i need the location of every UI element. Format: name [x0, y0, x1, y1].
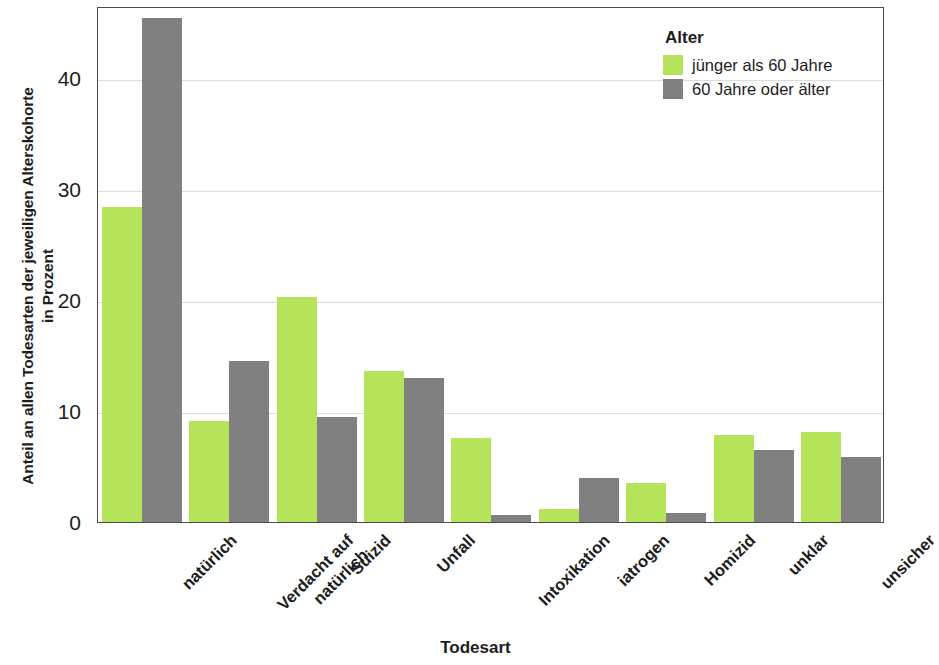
y-axis-tick-label: 20 — [21, 289, 81, 313]
x-axis-tick-label: iatrogen — [613, 530, 674, 591]
bar — [364, 371, 404, 522]
bar-group — [448, 8, 535, 522]
bar — [277, 297, 317, 522]
bar-group — [360, 8, 447, 522]
legend-title: Alter — [663, 28, 832, 48]
bar — [579, 478, 619, 522]
bar — [229, 361, 269, 522]
y-axis-title: Anteil an allen Todesarten der jeweilige… — [8, 16, 68, 556]
y-axis-tick-label: 10 — [21, 400, 81, 424]
x-axis-tick-label: Intoxikation — [534, 530, 615, 611]
bar — [801, 432, 841, 522]
bar — [189, 421, 229, 522]
x-axis-tick-label-line: unsicher — [876, 530, 939, 594]
y-axis-tick-label: 0 — [21, 511, 81, 535]
x-axis-tick-label-line: Homizid — [700, 530, 761, 591]
x-axis-tick-label-line: iatrogen — [613, 530, 674, 591]
x-axis-tick-label-line: natürlich — [177, 530, 241, 594]
legend-entry: 60 Jahre oder älter — [663, 79, 832, 99]
chart-legend: Alter jünger als 60 Jahre60 Jahre oder ä… — [663, 28, 832, 103]
bar — [102, 207, 142, 522]
x-axis-tick-label-line: unklar — [783, 530, 833, 580]
legend-swatch — [663, 79, 683, 99]
bar — [714, 435, 754, 522]
bar — [539, 509, 579, 522]
x-axis-tick-label-line: Unfall — [432, 530, 480, 578]
x-axis-tick-label-line: Intoxikation — [534, 530, 615, 611]
bar — [491, 515, 531, 522]
x-axis-tick-label: natürlich — [177, 530, 241, 594]
legend-entries: jünger als 60 Jahre60 Jahre oder älter — [663, 55, 832, 99]
bar-group — [535, 8, 622, 522]
x-axis-title: Todesart — [0, 638, 891, 658]
legend-label: 60 Jahre oder älter — [692, 80, 831, 99]
bar — [404, 378, 444, 522]
bar — [317, 417, 357, 522]
bar — [142, 18, 182, 522]
legend-label: jünger als 60 Jahre — [692, 56, 832, 75]
bar — [666, 513, 706, 522]
bar-group — [98, 8, 185, 522]
y-axis-tick-label: 30 — [21, 178, 81, 202]
bar — [754, 450, 794, 522]
bar — [451, 438, 491, 522]
x-axis-tick-label: Unfall — [432, 530, 480, 578]
y-axis-tick-label: 40 — [21, 67, 81, 91]
x-axis-tick-label: Homizid — [700, 530, 761, 591]
legend-swatch — [663, 55, 683, 75]
bar-group — [273, 8, 360, 522]
y-axis-title-line1: Anteil an allen Todesarten der jeweilige… — [18, 87, 38, 485]
x-axis-tick-label: unsicher — [876, 530, 939, 594]
x-axis-tick-label: unklar — [783, 530, 833, 580]
bar-group — [185, 8, 272, 522]
bar — [626, 483, 666, 522]
bar — [841, 457, 881, 522]
x-axis-tick-label: Verdacht aufnatürlich — [273, 530, 373, 630]
legend-entry: jünger als 60 Jahre — [663, 55, 832, 75]
